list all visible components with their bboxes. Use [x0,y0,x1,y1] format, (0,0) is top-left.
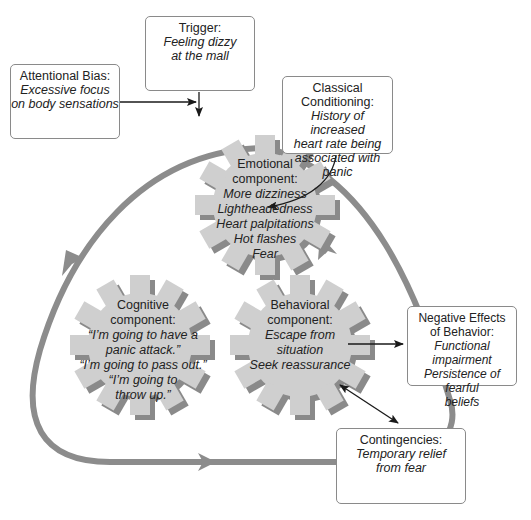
attentional-bias-box: Attentional Bias: Excessive focus on bod… [10,64,120,139]
emotional-body: More dizziness Lightheadedness Heart pal… [195,187,335,262]
cognitive-component-text: Cognitive component: “I’m going to have … [63,298,223,403]
classical-conditioning-box: Classical Conditioning: History of incre… [282,76,393,154]
behavioral-title: Behavioral component: [235,298,365,328]
attentional-bias-body: Excessive focus on body sensations [11,83,119,111]
trigger-body: Feeling dizzy at the mall [146,35,254,63]
negative-effects-title: Negative Effects of Behavior: [408,311,516,339]
trigger-box: Trigger: Feeling dizzy at the mall [145,16,255,91]
negative-effects-box: Negative Effects of Behavior: Functional… [407,306,517,386]
negative-effects-body: Functional impairment Persistence of fea… [408,339,516,409]
contingencies-body: Temporary relief from fear [337,447,465,475]
behavioral-component-text: Behavioral component: Escape from situat… [235,298,365,373]
behavioral-body: Escape from situation Seek reassurance [235,328,365,373]
classical-conditioning-title: Classical Conditioning: [283,81,392,109]
trigger-title: Trigger: [146,21,254,35]
contingencies-title: Contingencies: [337,433,465,447]
emotional-title: Emotional component: [195,157,335,187]
emotional-component-text: Emotional component: More dizziness Ligh… [195,157,335,262]
attentional-bias-title: Attentional Bias: [11,69,119,83]
contingencies-arrow [340,385,398,423]
contingencies-box: Contingencies: Temporary relief from fea… [336,428,466,504]
cognitive-body: “I’m going to have a panic attack.” “I’m… [63,328,223,403]
cognitive-title: Cognitive component: [63,298,223,328]
